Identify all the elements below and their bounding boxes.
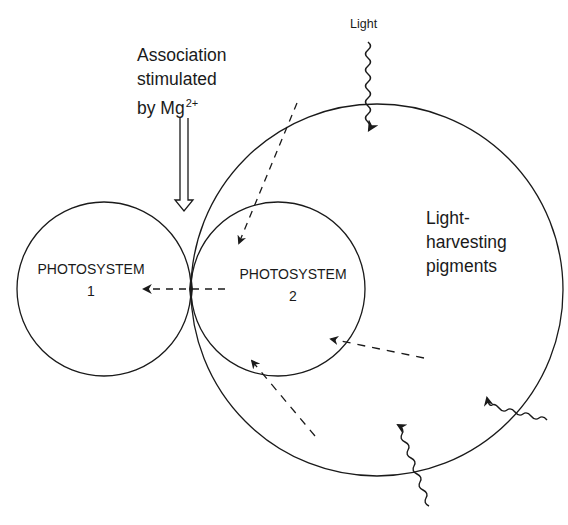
photosystem-2-label: PHOTOSYSTEM 2 (228, 263, 358, 307)
association-arrow-icon (175, 118, 193, 211)
photosystem-2-number: 2 (228, 285, 358, 307)
light-harvesting-line-3: pigments (426, 254, 507, 278)
light-wave-arrow-top (366, 42, 371, 130)
light-wave-arrow-right (487, 398, 547, 420)
light-label: Light (350, 17, 377, 31)
light-harvesting-line-1: Light- (426, 206, 507, 230)
photosystem-2-name: PHOTOSYSTEM (228, 263, 358, 285)
photosystem-1-number: 1 (25, 280, 157, 302)
photosystem-1-label: PHOTOSYSTEM 1 (25, 258, 157, 302)
association-line-1: Association (137, 43, 227, 67)
association-line-3: by Mg2+ (137, 91, 227, 120)
pigment-transfer-arrow-top (239, 103, 297, 243)
light-wave-arrow-bottom (398, 425, 429, 506)
light-harvesting-label: Light- harvesting pigments (426, 206, 507, 278)
association-mg-text: by Mg (137, 98, 185, 118)
photosystem-1-name: PHOTOSYSTEM (25, 258, 157, 280)
association-mg-charge: 2+ (186, 97, 199, 109)
association-line-2: stimulated (137, 67, 227, 91)
association-label: Association stimulated by Mg2+ (137, 43, 227, 120)
pigment-transfer-arrow-right (331, 339, 424, 358)
light-harvesting-line-2: harvesting (426, 230, 507, 254)
pigment-transfer-arrow-bottom (252, 361, 315, 436)
